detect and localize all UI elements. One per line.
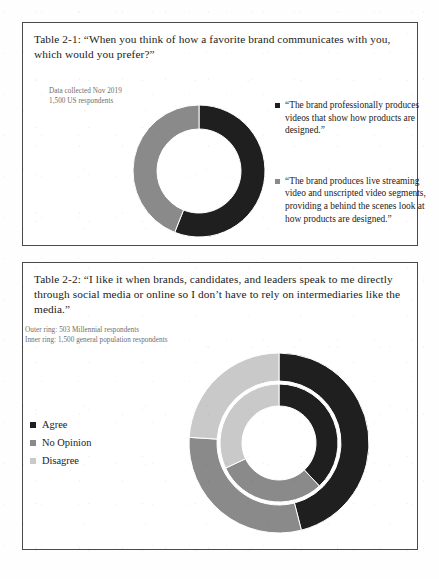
donut-chart-1-svg (131, 103, 267, 239)
figure2-legend: Agree No Opinion Disagree (30, 418, 150, 472)
figure2-subcaption-line2: Inner ring: 1,500 general population res… (25, 336, 265, 346)
legend-swatch-icon (30, 458, 36, 464)
legend-item: No Opinion (30, 436, 150, 450)
legend-item-label: “The brand produces live streaming video… (285, 175, 435, 225)
legend-swatch-icon (275, 179, 280, 184)
legend-item-label: No Opinion (42, 436, 91, 450)
figure-box-table-2-1: Table 2-1: “When you think of how a favo… (22, 22, 418, 246)
legend-item: Disagree (30, 454, 150, 468)
figure1-caption: Table 2-1: “When you think of how a favo… (34, 32, 408, 62)
legend-item: Agree (30, 418, 150, 432)
legend-item: “The brand professionally produces video… (275, 99, 435, 137)
donut-chart-2-svg (188, 352, 370, 534)
document-page: Table 2-1: “When you think of how a favo… (0, 0, 439, 579)
legend-swatch-icon (30, 422, 36, 428)
legend-item-label: “The brand professionally produces video… (285, 99, 435, 137)
legend-item-label: Disagree (42, 454, 79, 468)
double-donut-chart-table-2-2 (188, 352, 370, 534)
figure1-subcaption-line1: Data collected Nov 2019 (49, 87, 199, 97)
figure1-legend: “The brand professionally produces video… (275, 99, 435, 263)
legend-swatch-icon (30, 440, 36, 446)
figure2-subcaption: Outer ring: 503 Millennial respondents I… (25, 326, 265, 345)
donut-chart-table-2-1 (131, 103, 267, 239)
figure2-caption: Table 2-2: “I like it when brands, candi… (34, 272, 408, 318)
legend-swatch-icon (275, 103, 280, 108)
legend-item: “The brand produces live streaming video… (275, 175, 435, 225)
legend-item-label: Agree (42, 418, 67, 432)
figure2-subcaption-line1: Outer ring: 503 Millennial respondents (25, 326, 265, 336)
